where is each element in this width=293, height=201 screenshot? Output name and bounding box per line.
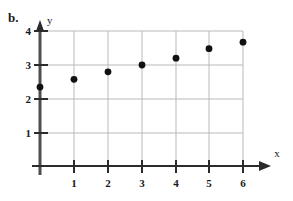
data-point: [37, 84, 44, 91]
data-point: [206, 45, 213, 52]
x-axis-label: x: [274, 147, 280, 159]
scatter-plot: 4 3 2 1 1 2 3 4 5 6 y x: [0, 0, 293, 201]
x-tick-label-2: 2: [105, 177, 111, 189]
data-point: [173, 55, 180, 62]
x-tick-label-4: 4: [173, 177, 179, 189]
y-tick-label-1: 1: [26, 127, 32, 139]
x-tick-label-1: 1: [71, 177, 77, 189]
figure-panel: b.: [0, 0, 293, 201]
y-tick-label-4: 4: [26, 25, 32, 37]
y-axis-label: y: [47, 14, 53, 26]
data-point: [240, 39, 247, 46]
x-axis: [32, 161, 271, 171]
x-tick-label-5: 5: [206, 177, 212, 189]
y-tick-label-3: 3: [26, 59, 32, 71]
data-point: [71, 76, 78, 83]
y-axis: [36, 20, 44, 175]
data-point: [139, 62, 146, 69]
data-point: [105, 68, 112, 75]
x-tick-label-6: 6: [240, 177, 246, 189]
x-tick-label-3: 3: [139, 177, 145, 189]
y-tick-label-2: 2: [26, 93, 32, 105]
